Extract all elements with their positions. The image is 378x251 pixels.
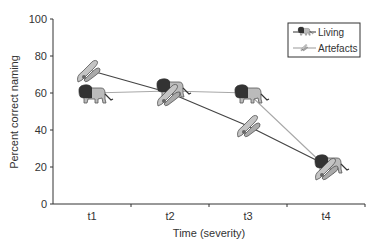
y-axis: 0 20 40 60 80 100 Percent correct naming — [8, 13, 53, 210]
y-tick-label: 40 — [35, 124, 47, 136]
x-axis: t1 t2 t3 t4 Time (severity) — [53, 204, 365, 239]
line-chart: 0 20 40 60 80 100 Percent correct naming… — [0, 0, 378, 251]
y-tick-label: 20 — [35, 161, 47, 173]
x-tick-label: t3 — [243, 210, 252, 222]
y-axis-title: Percent correct naming — [8, 55, 20, 169]
legend-label: Living — [318, 27, 344, 38]
pliers-icon — [238, 115, 261, 137]
series-line-artefacts — [92, 71, 326, 165]
legend: Living Artefacts — [288, 23, 360, 57]
y-tick-label: 0 — [41, 198, 47, 210]
y-tick-label: 100 — [29, 13, 47, 25]
lion-icon — [235, 85, 269, 103]
pliers-icon — [78, 60, 101, 82]
y-tick-label: 80 — [35, 50, 47, 62]
x-tick-label: t2 — [165, 210, 174, 222]
legend-label: Artefacts — [318, 43, 357, 54]
lion-icon — [79, 85, 113, 103]
series-line-living — [92, 91, 326, 167]
x-tick-label: t1 — [87, 210, 96, 222]
x-axis-title: Time (severity) — [173, 227, 245, 239]
y-tick-label: 60 — [35, 87, 47, 99]
x-tick-label: t4 — [321, 210, 330, 222]
